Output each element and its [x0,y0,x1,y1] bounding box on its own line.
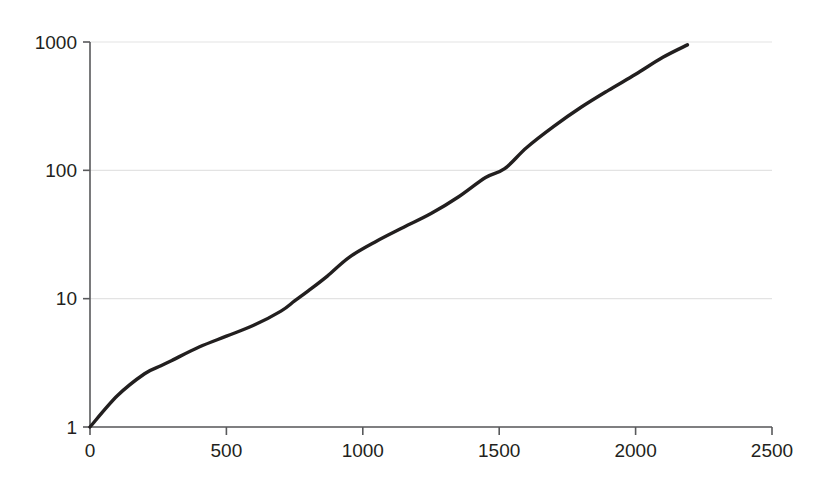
x-tick-label-2000: 2000 [614,440,656,461]
line-chart-svg: 1101001000 05001000150020002500 [0,0,836,496]
x-tick-label-500: 500 [211,440,243,461]
data-series-group [90,45,687,427]
y-tick-labels-group: 1101001000 [35,32,77,438]
chart-container: 1101001000 05001000150020002500 [0,0,836,496]
x-axis-group [90,427,772,435]
x-tick-label-1000: 1000 [342,440,384,461]
y-axis-group [83,42,90,427]
y-tick-label-1: 1 [66,417,77,438]
y-tick-label-1000: 1000 [35,32,77,53]
data-line-series-1 [90,45,687,427]
x-tick-label-1500: 1500 [478,440,520,461]
y-tick-label-100: 100 [45,160,77,181]
y-tick-label-10: 10 [56,288,77,309]
x-tick-label-0: 0 [85,440,96,461]
x-tick-label-2500: 2500 [751,440,793,461]
x-tick-labels-group: 05001000150020002500 [85,440,793,461]
gridlines-group [90,42,772,427]
